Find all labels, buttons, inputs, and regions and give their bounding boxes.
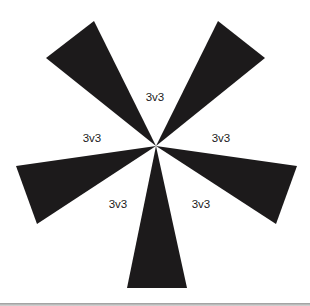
label-upper-left: 3v3 [83,132,102,144]
label-upper-right: 3v3 [212,132,231,144]
blade-bottom [127,146,187,288]
blade-left [16,146,156,224]
blade-top-right [156,21,265,146]
label-top: 3v3 [146,91,165,103]
blade-top-left [46,21,156,146]
label-lower-right: 3v3 [192,198,211,210]
blade-right [156,146,297,224]
blades-group [16,21,297,288]
pinwheel-diagram: 3v3 3v3 3v3 3v3 3v3 [0,0,310,306]
label-lower-left: 3v3 [109,198,128,210]
